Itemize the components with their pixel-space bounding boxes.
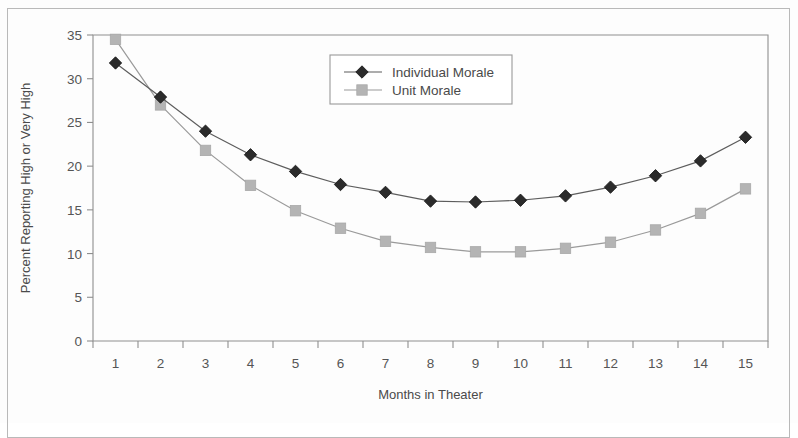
data-point-marker [245, 180, 255, 190]
data-point-marker [515, 247, 525, 257]
x-axis-title-text: Months in Theater [378, 387, 483, 402]
x-axis-tick-label: 1 [112, 356, 120, 371]
x-axis-tick-label: 14 [693, 356, 709, 371]
y-axis-tick-label: 20 [67, 159, 82, 174]
data-point-marker [380, 236, 390, 246]
y-axis-tick-label: 5 [74, 290, 82, 305]
y-axis-tick-label: 30 [67, 72, 82, 87]
data-point-marker [110, 34, 120, 44]
data-point-marker [650, 225, 660, 235]
y-axis-tick-label: 25 [67, 115, 82, 130]
data-point-marker [739, 131, 751, 143]
data-point-marker [290, 206, 300, 216]
chart-legend: Individual MoraleUnit Morale [330, 55, 512, 104]
data-point-marker [560, 243, 570, 253]
data-point-marker [649, 170, 661, 182]
y-axis-title-text: Percent Reporting High or Very High [18, 83, 33, 293]
data-point-marker [379, 186, 391, 198]
data-point-marker [335, 223, 345, 233]
legend-label-text: Unit Morale [392, 83, 461, 98]
data-point-marker [424, 195, 436, 207]
x-axis-tick-label: 5 [292, 356, 300, 371]
data-point-marker [604, 181, 616, 193]
data-point-marker [244, 149, 256, 161]
data-point-marker [740, 184, 750, 194]
x-axis-tick-label: 11 [558, 356, 572, 371]
data-point-marker [694, 155, 706, 167]
x-axis-tick-label: 6 [337, 356, 345, 371]
data-point-marker [695, 208, 705, 218]
y-axis-tick-label: 10 [67, 247, 82, 262]
legend-label-text: Individual Morale [392, 65, 494, 80]
data-point-marker [514, 194, 526, 206]
y-axis-tick-label: 0 [74, 334, 82, 349]
data-point-marker [334, 178, 346, 190]
data-point-marker [470, 247, 480, 257]
data-point-marker [199, 125, 211, 137]
x-axis-tick-label: 8 [427, 356, 435, 371]
data-point-marker [425, 242, 435, 252]
x-axis-tick-label: 15 [738, 356, 753, 371]
data-point-marker [200, 145, 210, 155]
x-axis-tick-label: 9 [472, 356, 480, 371]
x-axis-tick-label: 12 [603, 356, 618, 371]
data-point-marker [469, 196, 481, 208]
data-point-marker [605, 237, 615, 247]
data-point-marker [559, 190, 571, 202]
y-axis-tick-label: 15 [67, 203, 82, 218]
x-axis-tick-label: 2 [157, 356, 165, 371]
x-axis-tick-label: 4 [247, 356, 255, 371]
x-axis-tick-label: 7 [382, 356, 390, 371]
data-point-marker [109, 57, 121, 69]
x-axis-tick-label: 13 [648, 356, 663, 371]
x-axis-tick-label: 3 [202, 356, 210, 371]
y-axis-tick-label: 35 [67, 28, 82, 43]
x-axis-tick-label: 10 [513, 356, 528, 371]
data-point-marker [289, 165, 301, 177]
legend-marker-square-icon [357, 85, 367, 95]
